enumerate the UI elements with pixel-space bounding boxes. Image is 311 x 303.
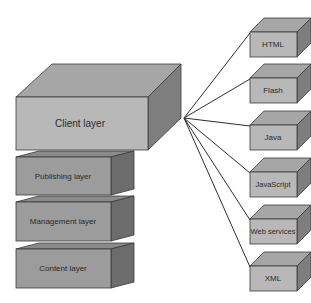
layer-publishing: Publishing layer [16, 151, 134, 195]
web-services-label: Web services [251, 227, 296, 236]
xml-label: XML [265, 274, 282, 283]
tech-javascript: JavaScript [250, 158, 311, 197]
java-label: Java [265, 133, 282, 142]
flash-label: Flash [263, 86, 283, 95]
layer-content: Content layer [16, 243, 134, 288]
architecture-diagram: Content layer Management layer Publishin… [0, 0, 311, 303]
publishing-layer-label: Publishing layer [35, 172, 92, 181]
html-label: HTML [262, 40, 284, 49]
tech-web-services: Web services [250, 205, 311, 244]
connector-web-services [184, 118, 250, 220]
connector-java [184, 118, 250, 126]
management-layer-label: Management layer [30, 217, 97, 226]
client-layer-label: Client layer [55, 118, 106, 129]
connector-xml [184, 118, 250, 267]
connector-html [184, 33, 250, 118]
tech-xml: XML [250, 252, 311, 291]
tech-flash: Flash [250, 64, 311, 103]
layer-management: Management layer [16, 196, 134, 241]
javascript-label: JavaScript [255, 180, 291, 189]
layer-client: Client layer [16, 64, 181, 150]
content-layer-label: Content layer [39, 264, 87, 273]
connector-lines [184, 33, 250, 267]
connector-flash [184, 79, 250, 118]
tech-html: HTML [250, 18, 311, 57]
connector-javascript [184, 118, 250, 173]
tech-java: Java [250, 111, 311, 150]
